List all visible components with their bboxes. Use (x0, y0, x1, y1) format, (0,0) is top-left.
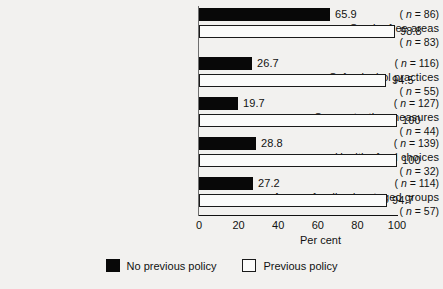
n-value-top: = 116) (407, 57, 439, 69)
bar-no-previous-policy (199, 177, 253, 190)
bar-value-light: 94.7 (392, 193, 414, 207)
legend-swatch-dark-icon (106, 259, 120, 272)
x-tick-100: 100 (388, 219, 406, 232)
bar-previous-policy (199, 74, 386, 87)
n-label-top: ( n = 127) (247, 97, 443, 109)
bar-value-light: 94.5 (392, 73, 414, 87)
x-tick-40: 40 (272, 219, 284, 232)
bar-chart: ( n = 86) Smoke-free areas ( n = 83) 65.… (0, 0, 443, 289)
x-axis-title-text: Per cent (300, 234, 341, 246)
bar-previous-policy (199, 194, 387, 207)
legend-label-dark: No previous policy (127, 260, 217, 272)
bar-previous-policy (199, 154, 397, 167)
x-tick-0: 0 (196, 219, 202, 232)
x-tick-20: 20 (232, 219, 244, 232)
bar-value-light: 98.8 (400, 24, 422, 38)
bar-value-dark: 65.9 (335, 7, 357, 21)
n-value-top: = 127) (406, 97, 439, 109)
bar-value-light: 100 (402, 113, 421, 127)
bar-no-previous-policy (199, 57, 252, 70)
legend: No previous policy Previous policy (0, 259, 443, 272)
bar-value-light: 100 (402, 153, 421, 167)
n-value-top: = 114) (407, 177, 439, 189)
legend-swatch-light-icon (242, 259, 256, 272)
legend-item-previous-policy: Previous policy (242, 259, 337, 272)
bar-previous-policy (199, 114, 397, 127)
bar-value-dark: 19.7 (243, 96, 265, 110)
legend-label-light: Previous policy (263, 260, 337, 272)
bar-value-dark: 28.8 (261, 136, 283, 150)
legend-item-no-previous-policy: No previous policy (106, 259, 217, 272)
x-tick-60: 60 (312, 219, 324, 232)
bar-value-dark: 27.2 (258, 176, 280, 190)
n-value-top: = 139) (406, 137, 439, 149)
x-tick-80: 80 (351, 219, 363, 232)
n-value-bottom: = 57) (412, 205, 439, 217)
bar-value-dark: 26.7 (257, 56, 279, 70)
bar-previous-policy (199, 25, 395, 38)
n-value-bottom: = 55) (412, 85, 439, 97)
bar-no-previous-policy (199, 8, 330, 21)
x-axis-title: Per cent (0, 234, 443, 247)
bar-no-previous-policy (199, 97, 238, 110)
bar-no-previous-policy (199, 137, 256, 150)
n-value-top: = 86) (412, 8, 439, 20)
